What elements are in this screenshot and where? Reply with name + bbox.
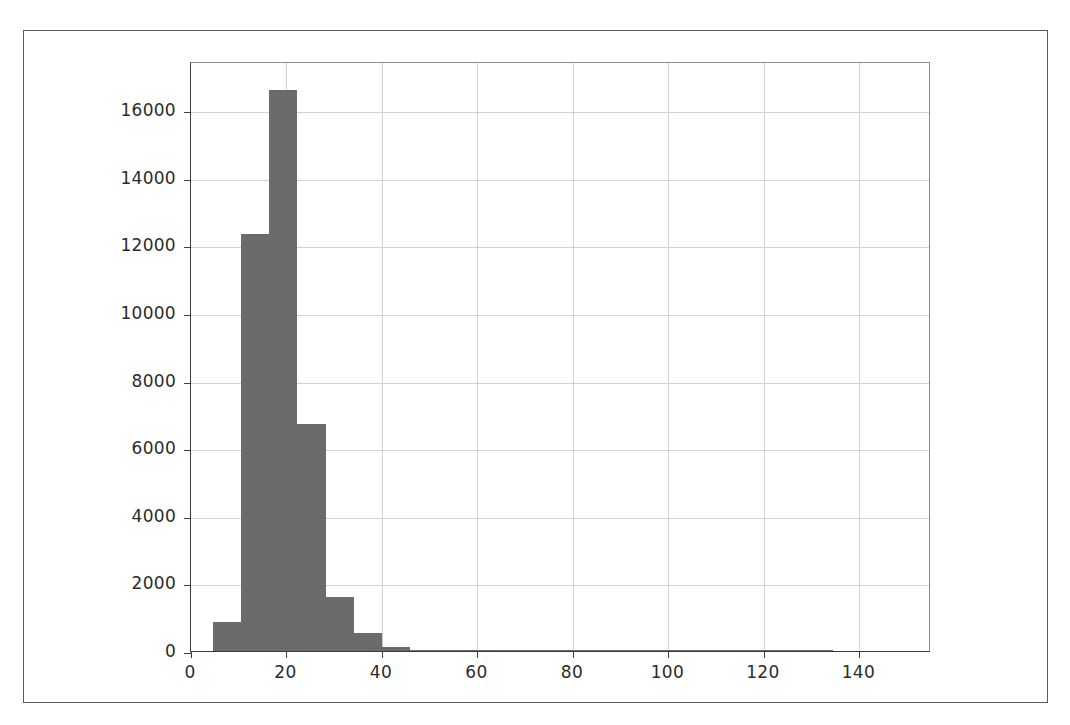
x-axis-tick — [191, 651, 192, 658]
histogram-bar — [213, 622, 241, 651]
histogram-bar — [326, 597, 354, 651]
histogram-bar — [551, 650, 579, 651]
gridline-vertical — [477, 63, 478, 651]
histogram-bar — [410, 650, 438, 651]
gridline-horizontal — [191, 383, 929, 384]
y-axis-tick — [184, 247, 191, 248]
histogram-bar — [776, 650, 804, 651]
histogram-bar — [523, 650, 551, 651]
gridline-horizontal — [191, 180, 929, 181]
histogram-bar — [495, 650, 523, 651]
x-axis-tick — [286, 651, 287, 658]
y-axis-tick — [184, 585, 191, 586]
x-axis-tick — [764, 651, 765, 658]
y-axis-tick — [184, 112, 191, 113]
y-axis-tick — [184, 315, 191, 316]
histogram-bar — [635, 650, 663, 651]
histogram-bar — [354, 633, 382, 651]
y-axis-tick — [184, 518, 191, 519]
histogram-bar — [382, 647, 410, 651]
x-axis-tick — [382, 651, 383, 658]
x-axis-tick — [668, 651, 669, 658]
histogram-bar — [269, 90, 297, 651]
histogram-bar — [466, 650, 494, 651]
y-axis-tick — [184, 653, 191, 654]
gridline-vertical — [573, 63, 574, 651]
x-axis-tick — [859, 651, 860, 658]
gridline-vertical — [668, 63, 669, 651]
histogram-bar — [748, 650, 776, 651]
y-axis-tick — [184, 383, 191, 384]
y-axis-tick — [184, 180, 191, 181]
histogram-bar — [438, 650, 466, 651]
gridline-vertical — [764, 63, 765, 651]
histogram-bar — [692, 650, 720, 651]
gridline-horizontal — [191, 112, 929, 113]
gridline-vertical — [382, 63, 383, 651]
x-axis-tick — [477, 651, 478, 658]
histogram-bar — [804, 650, 832, 651]
histogram-bar — [720, 650, 748, 651]
screenshot-root: 0200040006000800010000120001400016000 02… — [0, 0, 1070, 725]
gridline-horizontal — [191, 315, 929, 316]
y-axis-tick — [184, 450, 191, 451]
histogram-bar — [607, 650, 635, 651]
histogram-bar — [579, 650, 607, 651]
histogram-bar — [241, 234, 269, 651]
plot-area — [190, 62, 930, 652]
gridline-horizontal — [191, 247, 929, 248]
x-axis-tick — [573, 651, 574, 658]
gridline-vertical — [859, 63, 860, 651]
histogram-bar — [297, 424, 325, 651]
